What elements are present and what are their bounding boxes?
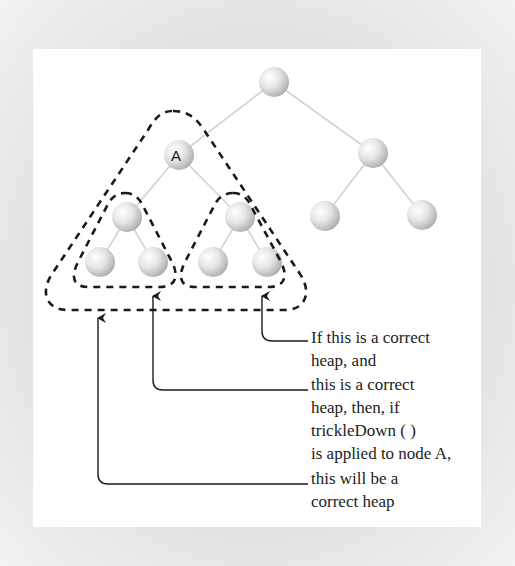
tree-nodes: A: [85, 67, 437, 277]
node-right-left: [310, 201, 340, 231]
annotation-line: this is a correct: [311, 373, 451, 396]
annotation-line: this will be a: [311, 467, 398, 490]
node-right-right: [407, 200, 437, 230]
annotation-whole-subtree: this will be a correct heap: [311, 467, 398, 513]
annotation-line: heap, then, if: [311, 396, 451, 419]
node-a-left-left: [85, 247, 115, 277]
leader-lines: [98, 296, 308, 484]
arrow-right-subtree: [262, 296, 308, 341]
edge-root-R: [274, 82, 373, 153]
arrow-whole-subtree: [98, 318, 308, 484]
node-a-right: [225, 202, 255, 232]
node-a-right-right: [252, 247, 282, 277]
annotation-line: is applied to node A,: [311, 442, 451, 465]
node-a-label: A: [171, 147, 181, 164]
annotation-line: If this is a correct: [311, 326, 430, 349]
annotation-line: heap, and: [311, 349, 430, 372]
node-right: [358, 138, 388, 168]
node-a-left: [112, 202, 142, 232]
tree-edges: [100, 82, 422, 262]
annotation-line: trickleDown ( ): [311, 419, 451, 442]
node-a-left-right: [138, 247, 168, 277]
node-a-right-left: [198, 247, 228, 277]
annotation-right-subtree: If this is a correct heap, and: [311, 326, 430, 372]
annotation-line: correct heap: [311, 490, 398, 513]
heap-tree-diagram: A: [0, 0, 515, 566]
node-root: [259, 67, 289, 97]
edge-root-A: [179, 82, 274, 155]
annotation-left-subtree: this is a correct heap, then, if trickle…: [311, 373, 451, 465]
